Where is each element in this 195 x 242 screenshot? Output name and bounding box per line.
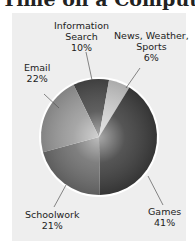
label-schoolwork-line1: Schoolwork (25, 209, 80, 220)
label-schoolwork: Schoolwork 21% (25, 209, 80, 231)
label-information-search-value: 10% (54, 42, 109, 53)
label-schoolwork-value: 21% (25, 220, 80, 231)
leader-line-schoolwork (54, 185, 66, 207)
leader-line-games (148, 176, 163, 205)
leader-line-information-search (86, 52, 92, 80)
label-news-weather-sports: News, Weather, Sports 6% (114, 30, 189, 63)
leader-line-news (126, 68, 140, 88)
label-news-value: 6% (114, 52, 189, 63)
label-news-line2: Sports (114, 41, 189, 52)
label-games-line1: Games (148, 206, 181, 217)
label-games-value: 41% (148, 217, 181, 228)
label-email-value: 22% (24, 73, 50, 84)
label-news-line1: News, Weather, (114, 30, 189, 41)
label-information-search-line1: Information (54, 20, 109, 31)
label-games: Games 41% (148, 206, 181, 228)
label-email-line1: Email (24, 62, 50, 73)
label-information-search-line2: Search (54, 31, 109, 42)
label-email: Email 22% (24, 62, 50, 84)
pie-shading (41, 79, 157, 195)
label-information-search: Information Search 10% (54, 20, 109, 53)
